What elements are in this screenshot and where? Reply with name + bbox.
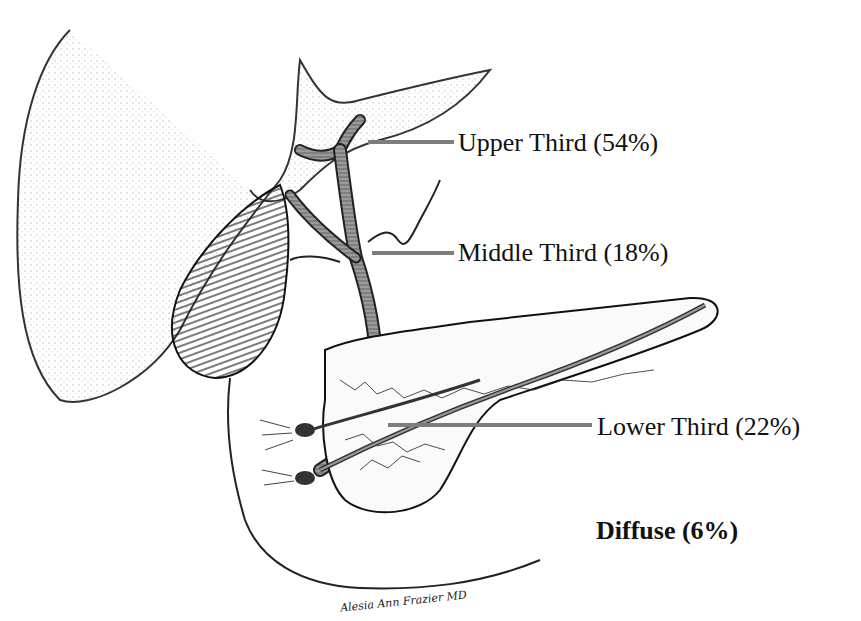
label-upper-third: Upper Third (54%)	[458, 130, 658, 156]
leader-middle	[372, 251, 454, 255]
label-middle-third: Middle Third (18%)	[458, 240, 668, 266]
vessel-branch	[368, 180, 440, 244]
leader-upper	[368, 140, 454, 144]
leader-lower	[388, 423, 592, 427]
ampulla	[260, 420, 315, 485]
label-diffuse: Diffuse (6%)	[596, 518, 738, 544]
label-lower-third: Lower Third (22%)	[597, 414, 800, 440]
